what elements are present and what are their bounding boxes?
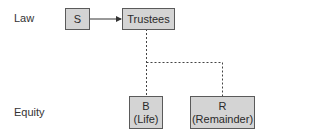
- remainder-node-subtitle: (Remainder): [192, 113, 253, 126]
- settlor-node-label: S: [74, 13, 81, 26]
- beneficiary-node-subtitle: (Life): [133, 113, 158, 126]
- trustees-node-label: Trustees: [127, 13, 169, 26]
- remainder-node-title: R: [219, 100, 227, 113]
- trustees-node: Trustees: [122, 8, 175, 30]
- beneficiary-life-node: B (Life): [129, 96, 163, 129]
- beneficiary-node-title: B: [142, 100, 149, 113]
- remainder-node: R (Remainder): [190, 96, 255, 129]
- settlor-node: S: [65, 8, 90, 30]
